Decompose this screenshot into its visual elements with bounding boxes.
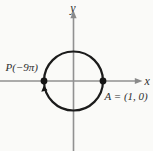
unit-circle-figure: y x P(−9π) A = (1, 0) bbox=[0, 0, 153, 151]
diagram-canvas: y x P(−9π) A = (1, 0) bbox=[0, 0, 153, 151]
x-axis-label: x bbox=[144, 74, 151, 88]
point-a-dot bbox=[100, 78, 107, 85]
point-p-dot bbox=[41, 78, 48, 85]
point-a-label: A = (1, 0) bbox=[104, 90, 149, 103]
x-axis-arrowhead-icon bbox=[135, 78, 143, 84]
point-p-label: P(−9π) bbox=[5, 61, 39, 74]
y-axis-label: y bbox=[69, 1, 76, 15]
